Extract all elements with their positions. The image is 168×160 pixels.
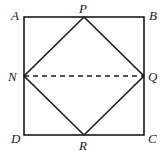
label-q: Q [148,69,158,84]
label-p: P [78,1,87,16]
label-n: N [7,69,18,84]
label-c: C [148,131,157,146]
geometry-diagram: A P B N Q D R C [0,0,168,160]
label-r: R [78,138,87,153]
label-d: D [10,131,21,146]
label-a: A [10,8,19,23]
label-b: B [149,8,157,23]
